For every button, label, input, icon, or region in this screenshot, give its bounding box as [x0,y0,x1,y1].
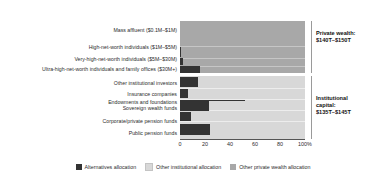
legend-swatch-other-institutional [145,163,153,171]
x-axis: 0 20 40 60 80 100% [180,139,305,151]
x-axis-line [180,139,305,140]
plot-area-private-wealth [180,21,305,73]
gridline [180,46,305,47]
x-tick-40: 40 [227,141,233,147]
bar-corporate-private-pension-funds [180,112,191,121]
bar-other-institutional-investors [180,77,198,87]
legend-label-alternatives: Alternatives allocation [85,164,137,170]
x-tick-60: 60 [252,141,258,147]
x-tick-20: 20 [202,141,208,147]
annotation-institutional-capital: Institutional capital: $135T–$145T [316,95,351,116]
row-label-public-pension: Public pension funds [129,130,177,136]
legend-label-other-institutional: Other institutional allocation [156,164,221,170]
bar-public-pension-funds [180,124,210,135]
annotation-private-wealth: Private wealth: $140T–$150T [316,30,355,44]
bar-insurance-companies [180,89,188,98]
bar-very-high-net-worth [180,58,183,65]
plot-area-institutional-capital [180,76,305,139]
x-tick-100: 100% [298,141,312,147]
x-tick-0: 0 [179,141,182,147]
bar-high-net-worth [180,47,181,57]
bar-ultra-high-net-worth [180,66,200,73]
row-label-sovereign-wealth-funds: Sovereign wealth funds [123,105,177,111]
row-label-mass-affluent: Mass affluent ($0.1M–$1M) [113,27,177,33]
row-label-high-net-worth: High-net-worth individuals ($1M–$5M) [89,44,177,50]
legend-swatch-other-private-wealth [230,164,236,170]
gridline [180,58,305,59]
legend-swatch-alternatives [76,164,82,170]
bracket-institutional-capital [311,76,312,139]
legend-item-alternatives: Alternatives allocation [76,164,137,170]
chart-legend: Alternatives allocation Other institutio… [0,163,386,171]
bar-sovereign-wealth-funds [180,101,209,111]
row-label-very-high-net-worth: Very-high-net-worth individuals ($5M–$30… [74,56,177,62]
gridline [180,121,305,122]
row-label-corporate-pension: Corporate/private pension funds [103,118,177,124]
gridline [180,88,305,89]
row-label-insurance-companies: Insurance companies [127,91,177,97]
legend-label-other-private-wealth: Other private wealth allocation [239,164,310,170]
bracket-private-wealth [311,21,312,73]
legend-item-other-private-wealth: Other private wealth allocation [230,164,310,170]
row-label-other-institutional: Other institutional investors [114,80,177,86]
x-tick-80: 80 [277,141,283,147]
stacked-bar-chart: Mass affluent ($0.1M–$1M) High-net-worth… [0,0,386,187]
row-label-ultra-high-net-worth: Ultra-high-net-worth individuals and fam… [42,66,177,72]
legend-item-other-institutional: Other institutional allocation [145,163,221,171]
